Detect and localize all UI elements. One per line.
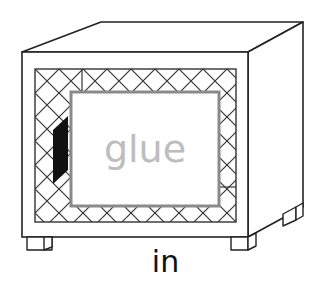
glue-label: glue [71,92,219,206]
preposition-caption: in [0,244,323,279]
preposition-illustration: glue in [0,0,323,292]
box-side-face [248,22,303,237]
